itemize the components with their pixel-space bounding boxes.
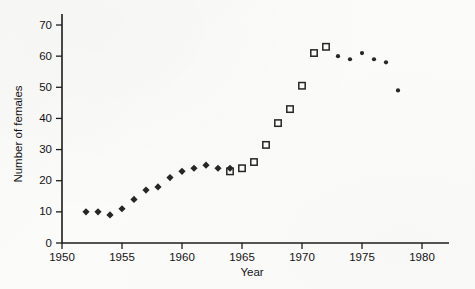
y-tick-label: 10 [39, 205, 52, 217]
data-point-square [323, 44, 329, 50]
data-point-dot [336, 54, 340, 58]
series-filled-diamond-series [82, 162, 233, 219]
data-point-dot [396, 88, 400, 92]
x-axis-title: Year [240, 266, 263, 278]
data-point-square [251, 159, 257, 165]
data-point-diamond [178, 168, 185, 175]
series-small-dot-series [336, 51, 400, 93]
y-tick-label: 40 [39, 112, 52, 124]
data-point-diamond [118, 205, 125, 212]
chart-figure: 0102030405060701950195519601965197019751… [0, 0, 475, 289]
y-tick-label: 20 [39, 174, 52, 186]
data-point-diamond [154, 183, 161, 190]
data-point-square [299, 83, 305, 89]
data-point-square [239, 165, 245, 171]
y-tick-label: 60 [39, 50, 52, 62]
x-tick-label: 1955 [109, 251, 135, 263]
x-tick-label: 1975 [349, 251, 375, 263]
data-point-dot [360, 51, 364, 55]
data-point-square [275, 120, 281, 126]
x-tick-label: 1970 [289, 251, 315, 263]
data-point-dot [384, 60, 388, 64]
scatter-plot: 0102030405060701950195519601965197019751… [0, 0, 475, 289]
data-point-diamond [166, 174, 173, 181]
data-point-diamond [214, 165, 221, 172]
data-point-square [311, 50, 317, 56]
x-tick-label: 1965 [229, 251, 255, 263]
y-tick-label: 0 [46, 237, 52, 249]
data-point-square [287, 106, 293, 112]
y-tick-label: 70 [39, 19, 52, 31]
data-point-diamond [106, 211, 113, 218]
data-point-diamond [202, 162, 209, 169]
data-point-dot [348, 57, 352, 61]
data-point-diamond [142, 186, 149, 193]
series-open-square-series [227, 44, 329, 175]
x-tick-label: 1950 [49, 251, 75, 263]
data-point-diamond [82, 208, 89, 215]
y-tick-label: 50 [39, 81, 52, 93]
data-point-diamond [130, 196, 137, 203]
y-axis-title: Number of females [12, 85, 24, 182]
data-point-square [263, 142, 269, 148]
data-point-diamond [190, 165, 197, 172]
data-point-diamond [94, 208, 101, 215]
x-tick-label: 1960 [169, 251, 195, 263]
x-tick-label: 1980 [409, 251, 435, 263]
data-point-dot [372, 57, 376, 61]
y-tick-label: 30 [39, 143, 52, 155]
